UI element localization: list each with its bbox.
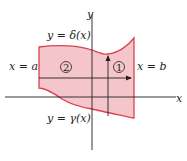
y-axis-label: y xyxy=(86,8,94,21)
region-2-label: 2 xyxy=(63,62,69,73)
left-boundary-label: x = a xyxy=(9,60,38,73)
region-diagram: y x y = δ(x) y = γ(x) x = a x = b 2 1 xyxy=(0,0,187,161)
region-1-label: 1 xyxy=(116,62,122,73)
top-curve-label: y = δ(x) xyxy=(46,29,91,42)
x-axis-label: x xyxy=(176,92,183,105)
right-boundary-label: x = b xyxy=(137,60,166,73)
bottom-curve-label: y = γ(x) xyxy=(46,112,91,125)
